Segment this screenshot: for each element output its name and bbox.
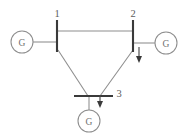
load-arrows bbox=[97, 47, 142, 108]
bus-label-3: 3 bbox=[116, 88, 121, 99]
load-arrow-bus-2 bbox=[136, 47, 142, 63]
generator-1-label: G bbox=[19, 38, 26, 48]
bus-label-2: 2 bbox=[130, 8, 135, 19]
transmission-line-1-3 bbox=[58, 50, 88, 96]
bus-labels: 1 2 3 bbox=[54, 8, 135, 99]
load-arrowhead-bus-3 bbox=[97, 101, 103, 108]
generator-leads bbox=[33, 42, 155, 110]
generator-1[interactable]: G bbox=[11, 31, 33, 53]
one-line-diagram-canvas: G G G 1 2 3 bbox=[0, 0, 191, 137]
generator-3[interactable]: G bbox=[78, 110, 100, 132]
load-arrowhead-bus-2 bbox=[136, 56, 142, 63]
generator-2[interactable]: G bbox=[155, 32, 177, 54]
bus-label-1: 1 bbox=[54, 8, 59, 19]
one-line-diagram: G G G 1 2 3 bbox=[0, 0, 191, 137]
transmission-lines bbox=[57, 31, 133, 96]
generator-2-label: G bbox=[163, 39, 170, 49]
generator-3-label: G bbox=[86, 117, 93, 127]
